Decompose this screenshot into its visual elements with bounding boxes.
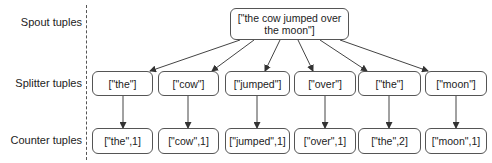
edge-spout-to-the <box>150 40 240 71</box>
counter-node-the-2: ["the",2] <box>358 128 421 154</box>
splitter-node-over: ["over"] <box>294 71 356 96</box>
edge-spout-to-jumped <box>265 40 280 71</box>
splitter-node-moon: ["moon"] <box>425 71 487 96</box>
counter-node-jumped: ["jumped",1] <box>225 128 290 154</box>
splitter-node-cow: ["cow"] <box>158 71 219 96</box>
splitter-node-the: ["the"] <box>92 71 153 96</box>
counter-node-cow: ["cow",1] <box>158 128 219 154</box>
spout-line-1: ["the cow jumped over <box>238 12 342 24</box>
counter-node-over: ["over",1] <box>294 128 356 154</box>
edge-spout-to-moon <box>340 40 428 71</box>
counter-node-the: ["the",1] <box>92 128 153 154</box>
edge-spout-to-cow <box>212 40 254 71</box>
spout-tuple-node: ["the cow jumped over the moon"] <box>230 8 349 40</box>
splitter-node-the-2: ["the"] <box>358 71 421 96</box>
spout-line-2: the moon"] <box>264 24 314 36</box>
counter-node-moon: ["moon",1] <box>425 128 487 154</box>
edge-spout-to-the-2 <box>320 40 367 71</box>
edge-spout-to-over <box>298 40 313 71</box>
splitter-node-jumped: ["jumped"] <box>225 71 290 96</box>
